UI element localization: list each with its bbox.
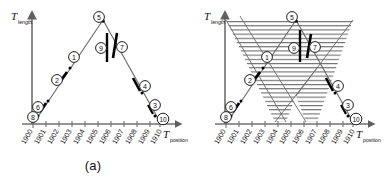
x-tick-labels-a: 1900 1901 1902 1903 1904 1905 1906 1907 … [19,128,164,146]
y-axis-label-sub-a: length [18,19,32,25]
panel-a: 1 2 6 8 5 9 7 4 3 10 T length T position [0,0,193,181]
x-tick-label: 1908 [316,128,332,146]
y-axis-label-b: T length [204,10,225,25]
x-tick-label: 1906 [290,128,306,146]
marker-3b-a: 3 [150,100,161,111]
svg-text:1: 1 [265,54,269,61]
svg-text:7: 7 [313,44,317,51]
marker-5-b: 5 [287,12,298,23]
svg-text:8: 8 [224,114,228,121]
x-tick-label: 1902 [238,128,254,146]
marker-7-a: 7 [117,42,128,53]
svg-text:6: 6 [229,104,233,111]
figure-container: 1 2 6 8 5 9 7 4 3 10 T length T position [0,0,386,181]
svg-text:10: 10 [352,116,360,123]
svg-text:2: 2 [55,77,59,84]
svg-text:9: 9 [99,45,103,52]
x-axis-label-a: T position [163,128,188,143]
svg-text:5: 5 [290,14,294,21]
marker-4-b: 4 [333,81,344,92]
svg-text:4: 4 [336,83,340,90]
y-axis-label-sub-b: length [211,19,225,25]
marker-6-b: 6 [226,102,237,113]
x-tick-label: 1901 [32,128,48,146]
x-tick-label: 1906 [97,128,113,146]
svg-text:3: 3 [153,102,157,109]
marker-9-a: 9 [96,43,107,54]
svg-text:2: 2 [248,77,252,84]
x-tick-label: 1910 [341,128,357,146]
annotation-markers-a: 1 2 6 8 5 9 7 4 3 10 [28,12,169,125]
marker-8-a: 8 [28,112,39,123]
x-tick-label: 1908 [123,128,139,146]
x-tick-label: 1904 [71,128,87,146]
y-axis-label-a: T length [11,10,32,25]
y-axis-label-main-b: T [204,10,211,22]
panel-a-plot: 1 2 6 8 5 9 7 4 3 10 T length T position [0,0,193,181]
marker-7-b: 7 [310,42,321,53]
y-axis-label-main-a: T [11,10,18,22]
svg-text:9: 9 [292,45,296,52]
x-tick-label: 1903 [251,128,267,146]
marker-3-b: 3 [343,100,354,111]
x-tick-label: 1905 [84,128,100,146]
svg-text:8: 8 [31,114,35,121]
x-tick-label: 1907 [303,128,319,146]
marker-10-a: 10 [157,113,169,125]
svg-text:10: 10 [159,116,167,123]
marker-4-a: 4 [140,81,151,92]
panel-b-plot: 1 2 6 8 5 9 7 4 3 10 T length T position [193,0,386,181]
marker-9-b: 9 [289,43,300,54]
x-axis-label-main-b: T [356,128,363,140]
panel-b: 1 2 6 8 5 9 7 4 3 10 T length T position [193,0,386,181]
svg-text:4: 4 [143,83,147,90]
data-points-a [37,19,157,117]
x-tick-label: 1900 [19,128,35,146]
svg-text:7: 7 [120,44,124,51]
x-tick-label: 1903 [58,128,74,146]
x-axis-label-main-a: T [163,128,170,140]
x-tick-label: 1902 [45,128,61,146]
x-axis-label-sub-b: position [363,137,381,143]
marker-1-a: 1 [69,52,80,63]
x-tick-label: 1900 [212,128,228,146]
svg-text:1: 1 [72,54,76,61]
x-tick-label: 1910 [148,128,164,146]
marker-2-b: 2 [245,75,256,86]
x-axis-label-b: T position [356,128,381,143]
x-tick-labels-b: 1900 1901 1902 1903 1904 1905 1906 1907 … [212,128,357,146]
marker-8-b: 8 [221,112,232,123]
x-axis-label-sub-a: position [170,137,188,143]
marker-1-b: 1 [262,52,273,63]
marker-10-b: 10 [350,113,362,125]
svg-text:6: 6 [36,104,40,111]
svg-text:5: 5 [97,14,101,21]
marker-5-a: 5 [94,12,105,23]
x-tick-label: 1901 [225,128,241,146]
marker-2-a: 2 [52,75,63,86]
x-tick-label: 1904 [264,128,280,146]
svg-text:3: 3 [346,102,350,109]
marker-3-a: 6 [33,102,44,113]
x-tick-label: 1907 [110,128,126,146]
panel-a-caption: (a) [63,158,123,173]
x-tick-label: 1905 [277,128,293,146]
